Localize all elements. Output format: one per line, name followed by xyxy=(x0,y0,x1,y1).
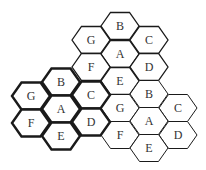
hex-label: G xyxy=(27,89,36,103)
hex-label: B xyxy=(145,87,153,101)
hex-label: F xyxy=(28,116,35,130)
hex-label: E xyxy=(145,141,152,155)
hex-label: C xyxy=(145,33,153,47)
hex-label: D xyxy=(87,115,96,129)
hex-label: A xyxy=(145,114,154,128)
hex-label: D xyxy=(174,128,183,142)
hex-label: E xyxy=(116,74,123,88)
hexagon-cell-diagram: BGCAFDEBGCAFDEBGCAFDE xyxy=(0,0,206,170)
hex-label: G xyxy=(87,33,96,47)
hex-label: A xyxy=(57,102,66,116)
hex-label: F xyxy=(88,60,95,74)
hex-label: B xyxy=(57,75,65,89)
hex-cell-e: E xyxy=(42,123,80,150)
hex-label: G xyxy=(116,101,125,115)
hex-label: C xyxy=(87,88,95,102)
left-cluster: BGCAFDE xyxy=(12,69,110,150)
hex-label: D xyxy=(145,60,154,74)
hex-clusters: BGCAFDEBGCAFDEBGCAFDE xyxy=(12,13,197,162)
hex-label: A xyxy=(116,47,125,61)
hex-label: F xyxy=(117,128,124,142)
hex-label: C xyxy=(174,101,182,115)
hex-label: E xyxy=(57,129,64,143)
hex-label: B xyxy=(116,19,124,33)
